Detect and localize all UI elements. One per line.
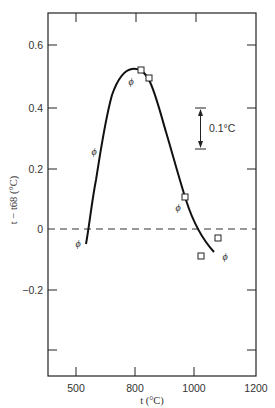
phi-marker: ϕ (91, 146, 96, 157)
phi-marker: ϕ (75, 238, 80, 249)
square-marker (182, 194, 188, 200)
x-tick-label: 1000 (182, 382, 206, 394)
square-marker (215, 235, 221, 241)
square-marker (138, 67, 144, 73)
phi-marker: ϕ (222, 251, 227, 262)
plot-frame (48, 13, 256, 376)
y-tick-label: −0.2 (22, 284, 43, 296)
x-axis-label: t (°C) (140, 395, 164, 407)
y-tick-label: 0.4 (28, 102, 43, 114)
y-tick-label: 0 (37, 223, 43, 235)
y-tick-label: 0.6 (28, 39, 43, 51)
y-axis-ticks (48, 45, 57, 350)
x-axis-top-ticks (76, 13, 196, 22)
fitted-curve (86, 69, 214, 252)
phi-marker: ϕ (175, 202, 180, 213)
chart-canvas: 500 800 1000 1200 0.6 0.4 0.2 0 −0.2 t (… (0, 0, 275, 408)
x-tick-label: 1200 (244, 382, 268, 394)
square-marker (198, 253, 204, 259)
y-axis-right-ticks (247, 45, 256, 350)
x-tick-label: 500 (67, 382, 85, 394)
phi-marker: ϕ (128, 76, 133, 87)
scale-bar (195, 108, 206, 149)
square-markers (138, 67, 221, 259)
y-tick-label: 0.2 (28, 163, 43, 175)
y-axis-label: t − t68 (°C) (8, 175, 20, 224)
x-tick-label: 800 (126, 382, 144, 394)
scale-bar-label: 0.1°C (209, 122, 236, 134)
x-axis-ticks (76, 367, 194, 376)
square-marker (146, 75, 152, 81)
